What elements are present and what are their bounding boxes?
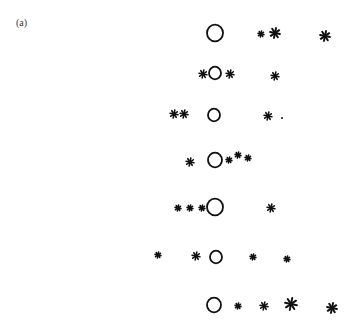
figure-row — [175, 199, 275, 216]
circle-marker-icon — [207, 298, 221, 313]
star-marker-icon — [260, 302, 268, 310]
circle-marker-icon — [207, 199, 223, 216]
circle-marker-icon — [210, 251, 222, 264]
star-marker-icon — [226, 157, 232, 163]
figure-row — [199, 67, 279, 80]
figure-row — [207, 298, 337, 313]
star-marker-icon — [258, 31, 264, 37]
dot-marker-icon — [281, 117, 283, 119]
figure-row — [170, 109, 283, 122]
star-marker-icon — [267, 204, 275, 212]
star-marker-icon — [250, 254, 256, 260]
circle-marker-icon — [207, 25, 223, 42]
star-marker-icon — [192, 252, 200, 260]
star-marker-icon — [175, 205, 181, 211]
star-marker-icon — [264, 112, 272, 120]
star-marker-icon — [199, 70, 207, 78]
star-marker-icon — [187, 205, 193, 211]
star-marker-icon — [327, 303, 337, 313]
circle-marker-icon — [208, 109, 220, 122]
star-marker-icon — [284, 256, 290, 262]
star-marker-icon — [285, 298, 297, 310]
figure-rows — [155, 25, 337, 313]
circle-marker-icon — [209, 67, 221, 80]
star-marker-icon — [270, 28, 280, 38]
star-marker-icon — [245, 155, 251, 161]
star-marker-icon — [199, 205, 205, 211]
star-marker-icon — [186, 158, 194, 166]
figure-row — [155, 251, 290, 264]
figure-canvas — [0, 0, 359, 326]
star-marker-icon — [271, 72, 279, 80]
star-marker-icon — [320, 31, 330, 41]
star-marker-icon — [226, 70, 234, 78]
star-marker-icon — [170, 110, 178, 118]
star-marker-icon — [235, 303, 241, 309]
star-marker-icon — [235, 152, 241, 158]
star-marker-icon — [155, 252, 161, 258]
figure-row — [207, 25, 330, 42]
star-marker-icon — [180, 110, 188, 118]
figure-row — [186, 152, 251, 167]
circle-marker-icon — [208, 153, 222, 168]
